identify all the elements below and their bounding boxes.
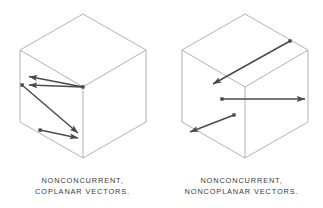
- cube-wireframe: [182, 14, 308, 158]
- cube-top-face: [20, 14, 146, 87]
- cube-edge-bottom-right: [245, 122, 308, 158]
- cube-diagram-coplanar: [0, 0, 165, 175]
- cube-diagram-noncoplanar: [160, 0, 323, 175]
- cube-edge-bottom-left: [20, 122, 83, 158]
- origin-dot-2: [220, 97, 223, 100]
- cube-top-face: [182, 14, 308, 87]
- panel-nonconcurrent-noncoplanar: NONCONCURRENT, NONCOPLANAR VECTORS.: [160, 0, 323, 208]
- caption-line-2: COPLANAR VECTORS.: [0, 187, 165, 198]
- panel-nonconcurrent-coplanar: NONCONCURRENT, COPLANAR VECTORS.: [0, 0, 165, 208]
- origin-dot-3: [232, 113, 235, 116]
- figure-root: NONCONCURRENT, COPLANAR VECTORS.: [0, 0, 323, 208]
- caption-line-1: NONCONCURRENT,: [0, 176, 165, 187]
- cube-edge-bottom-left: [182, 122, 245, 158]
- vector-3: [22, 85, 78, 133]
- vector-3: [190, 115, 234, 132]
- vector-origin-dots: [20, 83, 84, 131]
- origin-dot-1: [288, 39, 291, 42]
- caption-noncoplanar: NONCONCURRENT, NONCOPLANAR VECTORS.: [160, 176, 323, 197]
- vector-1: [213, 41, 290, 84]
- caption-coplanar: NONCONCURRENT, COPLANAR VECTORS.: [0, 176, 165, 197]
- vector-origin-dots: [220, 39, 291, 116]
- caption-line-1: NONCONCURRENT,: [160, 176, 323, 187]
- origin-dot-1: [81, 85, 84, 88]
- origin-dot-2: [20, 83, 23, 86]
- cube-edge-bottom-right: [83, 122, 146, 158]
- caption-line-2: NONCOPLANAR VECTORS.: [160, 187, 323, 198]
- origin-dot-3: [38, 128, 41, 131]
- vector-group-noncoplanar: [190, 41, 305, 132]
